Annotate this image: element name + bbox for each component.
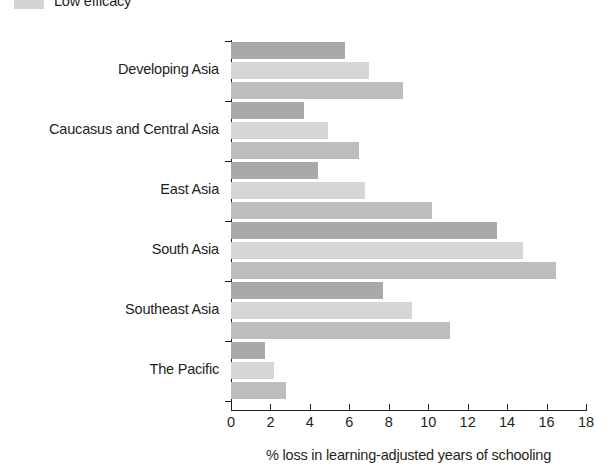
x-axis-tick (507, 404, 508, 411)
bar-chart: Developing Asia Caucasus and Central Asi… (0, 0, 612, 476)
y-axis-label-the-pacific: The Pacific (0, 361, 219, 377)
x-axis-tick (389, 404, 390, 411)
bar (231, 222, 497, 239)
x-axis-tick-label: 0 (211, 414, 251, 430)
x-axis-tick-label: 14 (487, 414, 527, 430)
bar (231, 242, 523, 259)
x-axis-tick-label: 8 (369, 414, 409, 430)
x-axis-title: % loss in learning-adjusted years of sch… (231, 447, 586, 463)
bar (231, 382, 286, 399)
bar (231, 42, 345, 59)
bar (231, 162, 318, 179)
bar (231, 122, 328, 139)
bar (231, 62, 369, 79)
x-axis-tick (428, 404, 429, 411)
bar (231, 322, 450, 339)
x-axis-tick-label: 4 (290, 414, 330, 430)
y-axis-tick (225, 401, 231, 402)
x-axis-tick (231, 404, 232, 411)
bar (231, 362, 274, 379)
bar (231, 102, 304, 119)
x-axis-tick-label: 18 (566, 414, 606, 430)
y-axis-label-caucasus-and-central-asia: Caucasus and Central Asia (0, 121, 219, 137)
x-axis-tick-label: 2 (250, 414, 290, 430)
x-axis-tick (547, 404, 548, 411)
bar (231, 302, 412, 319)
bar (231, 262, 556, 279)
bar (231, 82, 403, 99)
y-axis-label-southeast-asia: Southeast Asia (0, 301, 219, 317)
x-axis-tick (349, 404, 350, 411)
x-axis-tick-label: 10 (408, 414, 448, 430)
y-axis-label-east-asia: East Asia (0, 181, 219, 197)
x-axis-line (231, 410, 586, 411)
bar (231, 282, 383, 299)
x-axis-tick (468, 404, 469, 411)
x-axis-tick (310, 404, 311, 411)
x-axis-tick-label: 16 (527, 414, 567, 430)
bar (231, 202, 432, 219)
bar (231, 182, 365, 199)
x-axis-tick-label: 6 (329, 414, 369, 430)
bar (231, 142, 359, 159)
bar (231, 342, 265, 359)
x-axis-tick-label: 12 (448, 414, 488, 430)
y-axis-label-south-asia: South Asia (0, 241, 219, 257)
y-axis-label-developing-asia: Developing Asia (0, 61, 219, 77)
x-axis-tick (586, 404, 587, 411)
x-axis-tick (270, 404, 271, 411)
